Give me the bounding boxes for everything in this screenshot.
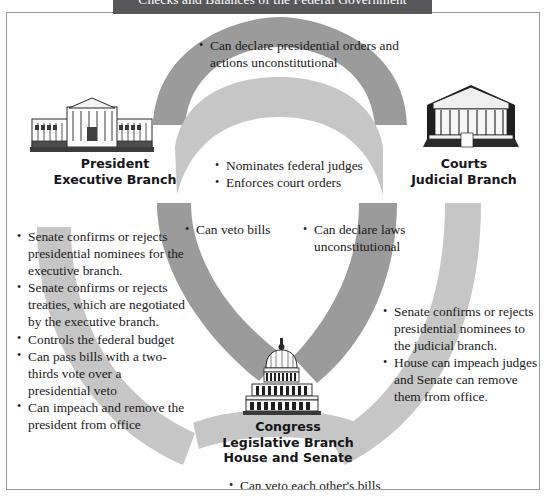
congress-chambers: House and Senate — [203, 450, 373, 466]
flow-text-courts-over-congress: Can declare laws unconstitutional — [303, 221, 453, 256]
flow-text-congress-over-president: Senate confirms or rejects presidential … — [17, 228, 185, 433]
branch-label-congress: Congress Legislative Branch House and Se… — [203, 419, 373, 466]
flow-text-courts-over-president: Can declare presidential orders and acti… — [199, 37, 399, 71]
list-item: Can veto bills — [185, 221, 305, 238]
page-title: Checks and Balances of the Federal Gover… — [138, 0, 406, 8]
list-item: Can declare laws unconstitutional — [303, 221, 453, 256]
list-item: Can impeach and remove the president fro… — [17, 399, 185, 433]
congress-title: Congress — [203, 419, 373, 435]
flow-text-congress-internal: Can veto each other's bills — [229, 477, 459, 490]
diagram-canvas: President Executive Branch Courts Judici… — [6, 12, 540, 490]
diagram-title-band: Checks and Balances of the Federal Gover… — [113, 0, 432, 14]
list-item: Controls the federal budget — [17, 331, 185, 348]
list-item: Senate confirms or rejects presidential … — [383, 303, 540, 354]
list-item: Nominates federal judges — [215, 157, 425, 174]
list-item: Can declare presidential orders and acti… — [199, 37, 399, 71]
list-item: Senate confirms or rejects presidential … — [17, 228, 185, 279]
branch-label-president: President Executive Branch — [7, 156, 223, 187]
flow-text-congress-over-courts: Senate confirms or rejects presidential … — [383, 303, 540, 406]
president-subtitle: Executive Branch — [7, 172, 223, 188]
supreme-court-icon — [419, 83, 523, 149]
congress-subtitle: Legislative Branch — [203, 435, 373, 451]
flow-text-president-over-congress: Can veto bills — [185, 221, 305, 238]
flow-text-president-over-courts: Nominates federal judges Enforces court … — [215, 157, 425, 191]
list-item: Can pass bills with a two-thirds vote ov… — [17, 348, 185, 399]
list-item: Senate confirms or rejects treaties, whi… — [17, 279, 185, 330]
list-item: House can impeach judges and Senate can … — [383, 354, 540, 405]
president-title: President — [7, 156, 223, 172]
list-item: Enforces court orders — [215, 174, 425, 191]
list-item: Can veto each other's bills — [229, 477, 459, 490]
capitol-dome-icon — [240, 338, 324, 418]
white-house-icon — [29, 97, 155, 153]
